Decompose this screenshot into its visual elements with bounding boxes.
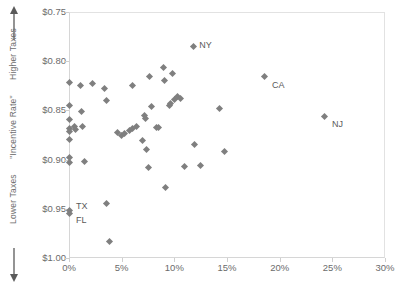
x-tick-label: 0%: [49, 262, 89, 273]
y-axis-title: Lower Taxes "Incentive Rate" Higher Taxe…: [8, 6, 24, 246]
x-tick-mark: [174, 258, 175, 262]
y-axis-metric-label: "Incentive Rate": [8, 95, 18, 159]
y-tick-mark: [65, 12, 69, 13]
x-tick-label: 5%: [102, 262, 142, 273]
x-tick-label: 30%: [365, 262, 399, 273]
x-tick-label: 15%: [207, 262, 247, 273]
y-tick-label: $0.90: [28, 154, 66, 166]
x-tick-label: 20%: [260, 262, 300, 273]
y-axis-caption-group: Lower Taxes "Incentive Rate" Higher Taxe…: [0, 0, 34, 289]
x-tick-label: 10%: [154, 262, 194, 273]
data-point-label-fl: FL: [76, 215, 87, 225]
y-tick-label: $0.95: [28, 203, 66, 215]
y-tick-text: $0.85: [30, 104, 66, 115]
data-point-label-ca: CA: [272, 80, 285, 90]
down-arrow-icon: [8, 248, 20, 282]
y-tick-text: $0.80: [30, 55, 66, 66]
y-tick-mark: [65, 110, 69, 111]
y-axis-lower-label: Lower Taxes: [8, 174, 18, 224]
x-tick-mark: [227, 258, 228, 262]
y-tick-label: $0.75: [28, 6, 66, 18]
scatter-chart: Lower Taxes "Incentive Rate" Higher Taxe…: [0, 0, 399, 289]
y-tick-text: $0.75: [30, 6, 66, 17]
x-tick-label: 25%: [312, 262, 352, 273]
y-tick-label: $0.85: [28, 104, 66, 116]
x-tick-mark: [69, 258, 70, 262]
y-tick-text: $0.95: [30, 203, 66, 214]
y-axis-higher-label: Higher Taxes: [8, 28, 18, 80]
x-tick-mark: [385, 258, 386, 262]
y-tick-mark: [65, 61, 69, 62]
data-point-label-nj: NJ: [332, 119, 343, 129]
x-tick-mark: [332, 258, 333, 262]
data-point-label-tx: TX: [76, 201, 88, 211]
x-tick-mark: [122, 258, 123, 262]
x-tick-mark: [280, 258, 281, 262]
y-tick-text: $0.90: [30, 154, 66, 165]
data-point-label-ny: NY: [199, 40, 212, 50]
y-tick-label: $0.80: [28, 55, 66, 67]
